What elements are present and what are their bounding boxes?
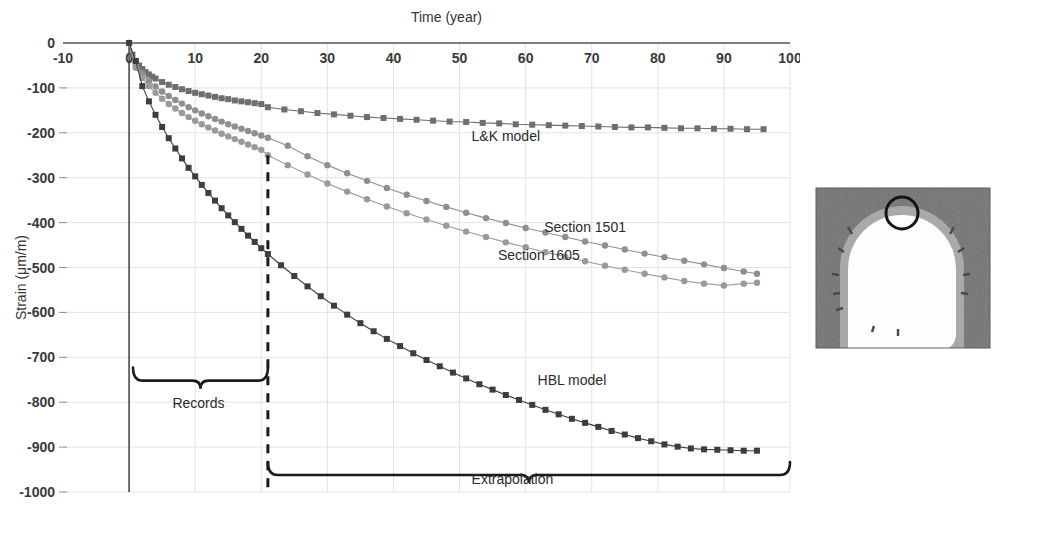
series-marker bbox=[612, 124, 618, 130]
series-marker bbox=[126, 40, 132, 46]
series-marker bbox=[245, 233, 251, 239]
series-marker bbox=[529, 402, 535, 408]
x-tick-label: 30 bbox=[320, 50, 336, 66]
series-marker bbox=[529, 122, 535, 128]
series-marker bbox=[186, 88, 192, 94]
series-marker bbox=[199, 121, 205, 127]
series-marker bbox=[754, 271, 760, 277]
series-marker bbox=[192, 117, 198, 123]
series-text-label: L&K model bbox=[472, 128, 540, 144]
series-marker bbox=[344, 170, 350, 176]
series-marker bbox=[212, 127, 218, 133]
y-tick-label: -500 bbox=[27, 260, 55, 276]
series-marker bbox=[522, 225, 528, 231]
series-marker bbox=[251, 130, 257, 136]
x-tick-label: -10 bbox=[53, 50, 73, 66]
brace-text-label: Records bbox=[172, 395, 224, 411]
series-marker bbox=[166, 101, 172, 107]
series-marker bbox=[463, 210, 469, 216]
y-tick-label: -600 bbox=[27, 304, 55, 320]
series-marker bbox=[238, 98, 244, 104]
series-marker bbox=[298, 108, 304, 114]
tunnel-photo-svg bbox=[812, 182, 997, 354]
series-marker bbox=[212, 116, 218, 122]
series-marker bbox=[569, 416, 575, 422]
series-marker bbox=[503, 239, 509, 245]
series-marker bbox=[582, 258, 588, 264]
series-marker bbox=[304, 171, 310, 177]
series-marker bbox=[513, 121, 519, 127]
series-marker bbox=[265, 251, 271, 257]
series-marker bbox=[410, 350, 416, 356]
series-marker bbox=[641, 271, 647, 277]
series-marker bbox=[463, 119, 469, 125]
series-marker bbox=[304, 153, 310, 159]
series-marker bbox=[153, 75, 159, 81]
series-marker bbox=[179, 110, 185, 116]
series-marker bbox=[423, 216, 429, 222]
y-tick-label: 0 bbox=[47, 35, 55, 51]
series-marker bbox=[153, 112, 159, 118]
series-marker bbox=[741, 448, 747, 454]
series-marker bbox=[344, 312, 350, 318]
series-marker bbox=[688, 445, 694, 451]
x-tick-label: 80 bbox=[650, 50, 666, 66]
series-marker bbox=[238, 139, 244, 145]
series-marker bbox=[609, 428, 615, 434]
series-marker bbox=[258, 147, 264, 153]
series-marker bbox=[232, 136, 238, 142]
series-marker bbox=[490, 387, 496, 393]
series-marker bbox=[721, 265, 727, 271]
series-marker bbox=[258, 101, 264, 107]
x-tick-label: 20 bbox=[253, 50, 269, 66]
series-marker bbox=[645, 124, 651, 130]
series-marker bbox=[364, 178, 370, 184]
series-marker bbox=[265, 135, 271, 141]
series-marker bbox=[397, 343, 403, 349]
tunnel-cross-section-inset bbox=[812, 182, 997, 354]
series-marker bbox=[152, 83, 158, 89]
series-marker bbox=[602, 263, 608, 269]
series-marker bbox=[172, 84, 178, 90]
series-marker bbox=[447, 119, 453, 125]
series-marker bbox=[212, 198, 218, 204]
series-marker bbox=[582, 238, 588, 244]
series-marker bbox=[384, 336, 390, 342]
gridlines bbox=[63, 43, 790, 492]
series-marker bbox=[205, 93, 211, 99]
x-tick-label: 60 bbox=[518, 50, 534, 66]
series-marker bbox=[218, 130, 224, 136]
series-marker bbox=[219, 95, 225, 101]
tunnel-opening bbox=[848, 215, 956, 352]
series-marker bbox=[384, 203, 390, 209]
series-marker bbox=[430, 118, 436, 124]
x-tick-label: 90 bbox=[716, 50, 732, 66]
x-tick-label: 50 bbox=[452, 50, 468, 66]
series-marker bbox=[364, 114, 370, 120]
series-marker bbox=[661, 254, 667, 260]
series-line bbox=[129, 43, 757, 451]
series-marker bbox=[205, 124, 211, 130]
series-marker bbox=[265, 104, 271, 110]
series-marker bbox=[258, 245, 264, 251]
series-marker bbox=[602, 242, 608, 248]
series-marker bbox=[281, 106, 287, 112]
series-marker bbox=[285, 162, 291, 168]
series-marker bbox=[324, 180, 330, 186]
x-tick-label: 70 bbox=[584, 50, 600, 66]
series-marker bbox=[212, 94, 218, 100]
series-marker bbox=[714, 447, 720, 453]
series-line bbox=[129, 43, 763, 129]
series-marker bbox=[186, 165, 192, 171]
series-marker bbox=[146, 98, 152, 104]
x-axis-title: Time (year) bbox=[411, 9, 482, 25]
series-marker bbox=[450, 370, 456, 376]
series-marker bbox=[754, 280, 760, 286]
series-marker bbox=[476, 381, 482, 387]
series-marker bbox=[219, 205, 225, 211]
series-marker bbox=[675, 444, 681, 450]
y-tick-label: -700 bbox=[27, 349, 55, 365]
series-marker bbox=[562, 123, 568, 129]
series-marker bbox=[648, 438, 654, 444]
y-tick-label: -100 bbox=[27, 80, 55, 96]
